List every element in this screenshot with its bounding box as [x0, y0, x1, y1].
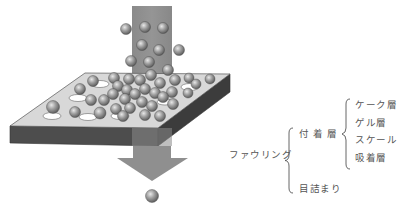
- branch-label-adhesion-layer: 付 着 層: [299, 128, 338, 139]
- branch-label-clogging: 目詰まり: [299, 183, 341, 194]
- outflow-arrow: [117, 146, 188, 181]
- sub-label-scale: スケール: [355, 134, 397, 145]
- sub-label-gel-layer: ゲル層: [355, 117, 387, 128]
- inflow-column-through: [132, 128, 172, 146]
- root-brace-icon: [285, 127, 295, 194]
- adhesion-brace-icon: [342, 98, 352, 170]
- passed-particle: [146, 190, 159, 203]
- sub-label-adsorption-layer: 吸着層: [355, 152, 387, 163]
- sub-label-cake-layer: ケーク層: [355, 99, 397, 110]
- root-label: ファウリング: [229, 149, 292, 160]
